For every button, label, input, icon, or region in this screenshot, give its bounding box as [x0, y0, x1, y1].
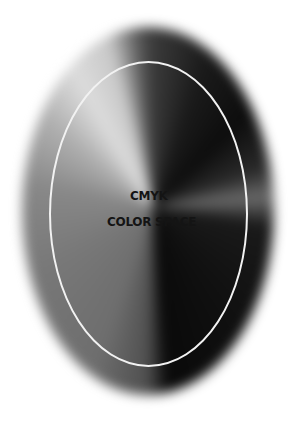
- white-ring-outline: [49, 61, 248, 367]
- title-line-1: CMYK: [130, 189, 168, 203]
- title-line-2: COLOR SPACE: [107, 215, 196, 229]
